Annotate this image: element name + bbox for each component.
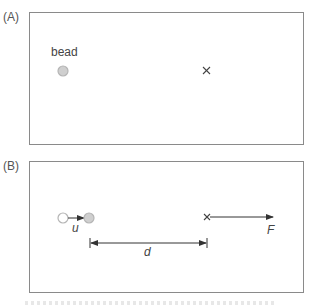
cropped-caption bbox=[25, 301, 275, 305]
distance-label: d bbox=[144, 245, 151, 259]
bead-label: bead bbox=[51, 45, 78, 59]
initial-position-icon bbox=[58, 213, 68, 223]
force-label: F bbox=[267, 223, 274, 237]
target-x-icon-b bbox=[204, 214, 210, 220]
bead-icon bbox=[58, 66, 68, 76]
velocity-label: u bbox=[72, 221, 79, 235]
bead-icon-b bbox=[84, 213, 94, 223]
target-x-icon-a bbox=[203, 67, 210, 74]
diagram-graphics bbox=[0, 0, 314, 305]
